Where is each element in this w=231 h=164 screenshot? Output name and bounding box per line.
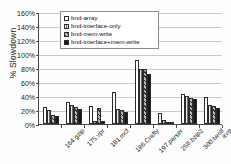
bar bbox=[216, 108, 220, 124]
y-tick-label: 20% bbox=[21, 108, 35, 115]
dark-vertical-hatch-square-icon bbox=[64, 24, 69, 29]
bar bbox=[170, 122, 174, 124]
y-tick-label: 40% bbox=[21, 94, 35, 101]
white-square-icon bbox=[64, 16, 69, 21]
bar bbox=[78, 109, 82, 124]
y-tick-label: 100% bbox=[17, 52, 35, 59]
bar bbox=[101, 121, 105, 125]
bar-group bbox=[39, 13, 62, 124]
y-tick-label: 60% bbox=[21, 80, 35, 87]
legend-item[interactable]: bnd-interface+mem-write bbox=[64, 38, 155, 46]
x-tick-label: 175.vpr bbox=[86, 127, 106, 147]
bar bbox=[124, 112, 128, 124]
legend-label: bnd-interface+mem-write bbox=[71, 38, 140, 46]
y-tick-label: 160% bbox=[17, 10, 35, 17]
x-tick-label: 164.gzip bbox=[64, 127, 86, 149]
bar-group bbox=[200, 13, 223, 124]
y-tick-label: 140% bbox=[17, 24, 35, 31]
black-square-icon bbox=[64, 40, 69, 45]
bar-group bbox=[177, 13, 200, 124]
bar-chart: % Slowdown 0%20%40%60%80%100%120%140%160… bbox=[0, 0, 231, 164]
y-tick-label: 120% bbox=[17, 38, 35, 45]
chart-legend: bnd-arraybnd-interface-onlybnd-mem-write… bbox=[60, 11, 159, 49]
x-tick-mark bbox=[107, 125, 108, 128]
x-tick-label: 300.twolf bbox=[202, 127, 225, 150]
y-tick-label: 80% bbox=[21, 66, 35, 73]
x-tick-label: 181.mcf bbox=[109, 127, 130, 148]
bar bbox=[55, 116, 59, 124]
legend-label: bnd-interface-only bbox=[71, 22, 121, 30]
x-tick-mark bbox=[61, 125, 62, 128]
x-tick-mark bbox=[199, 125, 200, 128]
legend-label: bnd-mem-write bbox=[71, 30, 112, 38]
gray-diagonal-hatch-square-icon bbox=[64, 32, 69, 37]
legend-label: bnd-array bbox=[71, 14, 97, 22]
bar bbox=[193, 99, 197, 124]
y-tick-label: 0% bbox=[25, 122, 35, 129]
x-tick-mark bbox=[153, 125, 154, 128]
bar bbox=[147, 74, 151, 124]
x-tick-mark bbox=[176, 125, 177, 128]
y-tick-mark bbox=[36, 125, 39, 126]
legend-item[interactable]: bnd-interface-only bbox=[64, 22, 155, 30]
legend-item[interactable]: bnd-mem-write bbox=[64, 30, 155, 38]
x-tick-mark bbox=[130, 125, 131, 128]
x-tick-mark bbox=[84, 125, 85, 128]
x-tick-mark bbox=[222, 125, 223, 128]
legend-item[interactable]: bnd-array bbox=[64, 14, 155, 22]
x-tick-label: 197.parser bbox=[157, 127, 184, 154]
